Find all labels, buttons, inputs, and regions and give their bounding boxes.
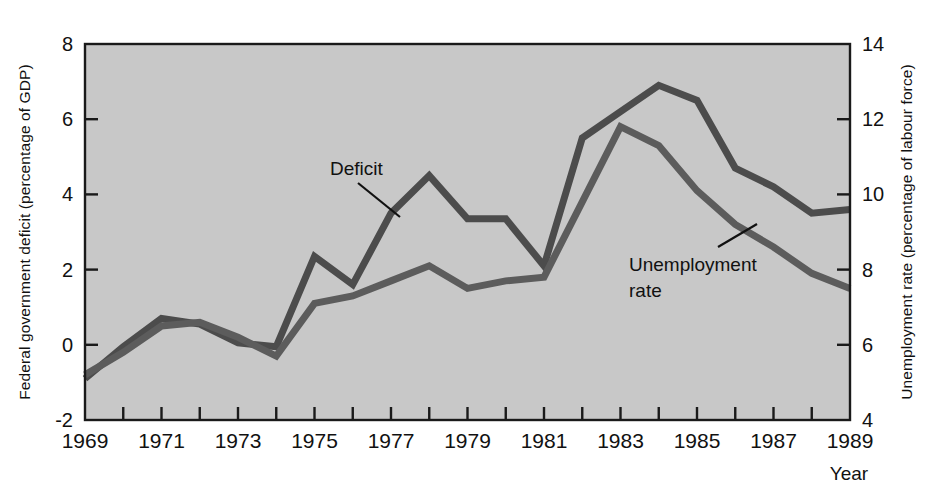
right-axis-tick-label: 6 bbox=[862, 334, 873, 356]
chart-figure: 86420-2 141210864 1969197119731975197719… bbox=[0, 0, 928, 495]
x-axis-tick-labels: 1969197119731975197719791981198319851987… bbox=[62, 429, 874, 452]
left-axis-tick-label: 4 bbox=[62, 183, 73, 205]
unemployment-series-label-line1: Unemployment bbox=[629, 254, 757, 275]
unemployment-series-label-line2: rate bbox=[629, 280, 662, 301]
x-axis-tick-label: 1975 bbox=[291, 429, 338, 452]
x-axis-tick-label: 1989 bbox=[827, 429, 874, 452]
x-axis-title: Year bbox=[830, 463, 869, 484]
left-axis-tick-label: -2 bbox=[55, 409, 73, 431]
right-axis-tick-label: 12 bbox=[862, 108, 884, 130]
x-axis-tick-label: 1977 bbox=[368, 429, 415, 452]
left-axis-tick-label: 6 bbox=[62, 108, 73, 130]
x-axis-tick-label: 1971 bbox=[138, 429, 185, 452]
left-axis-title: Federal government deficit (percentage o… bbox=[16, 64, 33, 399]
x-axis-tick-label: 1979 bbox=[444, 429, 491, 452]
x-axis-tick-label: 1987 bbox=[750, 429, 797, 452]
x-axis-tick-label: 1969 bbox=[62, 429, 109, 452]
x-axis-tick-label: 1983 bbox=[597, 429, 644, 452]
right-axis-tick-label: 10 bbox=[862, 183, 884, 205]
right-axis-tick-label: 4 bbox=[862, 409, 873, 431]
right-axis-tick-label: 8 bbox=[862, 259, 873, 281]
x-axis-tick-label: 1981 bbox=[521, 429, 568, 452]
right-axis-title: Unemployment rate (percentage of labour … bbox=[898, 64, 915, 399]
right-axis-tick-label: 14 bbox=[862, 33, 884, 55]
left-axis-tick-label: 0 bbox=[62, 334, 73, 356]
deficit-series-label: Deficit bbox=[330, 158, 384, 179]
left-axis-tick-label: 8 bbox=[62, 33, 73, 55]
x-axis-tick-label: 1985 bbox=[674, 429, 721, 452]
chart-svg: 86420-2 141210864 1969197119731975197719… bbox=[0, 0, 928, 495]
x-axis-tick-label: 1973 bbox=[215, 429, 262, 452]
plot-area-background bbox=[85, 44, 850, 420]
left-axis-tick-label: 2 bbox=[62, 259, 73, 281]
